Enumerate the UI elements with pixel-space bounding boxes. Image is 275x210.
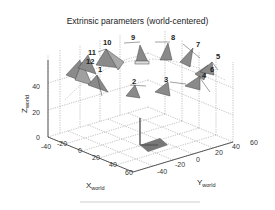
x-tick: 40: [109, 161, 117, 168]
z-tick: 20: [32, 109, 40, 116]
camera-label-5: 5: [216, 52, 220, 61]
camera-label-8: 8: [171, 33, 175, 42]
z-axis-label: Zworld: [20, 95, 30, 113]
x-tick: 60: [125, 169, 133, 176]
y-axis-label: Yworld: [197, 178, 216, 188]
camera-label-10: 10: [103, 38, 111, 47]
camera-label-3: 3: [164, 75, 168, 84]
camera-label-9: 9: [131, 33, 135, 42]
chart-plot-area: 0 20 40 -40 -20 0 20 40 60 -40 -20 0 20 …: [0, 0, 275, 210]
y-tick: 60: [250, 139, 258, 146]
y-tick: 0: [196, 156, 200, 163]
camera-label-6: 6: [210, 65, 214, 74]
camera-label-12: 12: [86, 57, 94, 66]
camera-label-1: 1: [98, 65, 102, 74]
z-tick: 0: [36, 134, 40, 141]
y-tick: 20: [215, 149, 223, 156]
x-tick: 0: [78, 147, 82, 154]
camera-8: [155, 42, 172, 60]
camera-label-2: 2: [132, 77, 136, 86]
x-tick: 20: [92, 154, 100, 161]
world-origin-pattern: [140, 118, 168, 152]
camera-label-7: 7: [196, 40, 200, 49]
camera-2: [126, 85, 146, 98]
y-tick: -20: [175, 161, 185, 168]
y-tick: -40: [157, 168, 167, 175]
camera-1: [88, 75, 108, 96]
z-tick: 40: [32, 83, 40, 90]
figure-caption: [80, 201, 200, 203]
x-tick: -40: [41, 143, 51, 150]
x-axis-label: Xworld: [86, 181, 105, 191]
camera-4: [185, 76, 210, 92]
camera-label-11: 11: [88, 48, 96, 57]
camera-9: [124, 42, 149, 64]
x-tick: -20: [57, 140, 67, 147]
y-tick: 40: [232, 143, 240, 150]
